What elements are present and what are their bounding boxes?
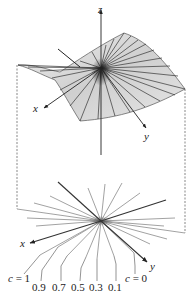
level-label-0.3: 0.3: [89, 281, 103, 293]
level-label-c0: c = 0: [125, 272, 148, 284]
level-labels: c = 1 0.9 0.7 0.5 0.3 0.1 c = 0: [8, 272, 148, 293]
level-label-0.5: 0.5: [71, 281, 85, 293]
level-label-0.1: 0.1: [108, 281, 122, 293]
level-label-0.7: 0.7: [52, 281, 66, 293]
label-leaders: [24, 247, 135, 281]
surface-and-level-curves-diagram: z x y: [0, 0, 195, 306]
surface-plot: [18, 33, 185, 121]
lower-x-axis-label: x: [19, 237, 25, 249]
lower-y-axis-label: y: [149, 260, 155, 272]
z-axis-label: z: [97, 3, 103, 15]
x-axis-back: [58, 49, 80, 67]
level-label-c1: c = 1: [8, 272, 30, 284]
y-axis-label: y: [143, 130, 149, 142]
x-axis-label: x: [32, 102, 38, 114]
level-label-0.9: 0.9: [32, 281, 46, 293]
